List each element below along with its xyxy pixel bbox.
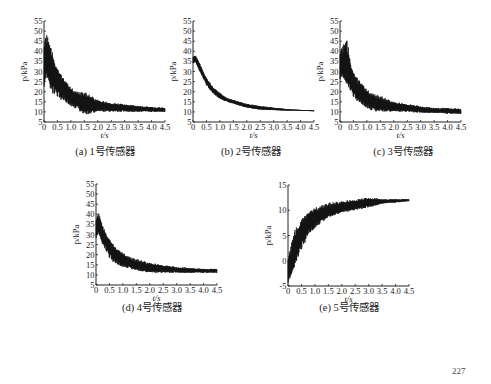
y-tick-label: 45 <box>183 36 192 46</box>
chart-panel-c: 51015202530354045505500.51.01.52.02.53.0… <box>296 0 466 160</box>
y-tick-label: 50 <box>34 26 43 36</box>
x-tick-label: 4.0 <box>198 285 209 295</box>
x-axis-label: t/s <box>396 130 405 140</box>
x-tick-label: 0 <box>191 122 195 132</box>
x-tick-label: 0.5 <box>201 122 212 132</box>
x-axis-label: t/s <box>249 130 258 140</box>
chart-panel-a: 51015202530354045505500.51.01.52.02.53.0… <box>0 0 170 160</box>
chart-a: 51015202530354045505500.51.01.52.02.53.0… <box>0 0 170 160</box>
x-tick-label: 0.5 <box>104 285 115 295</box>
y-tick-label: 15 <box>183 97 192 107</box>
x-tick-label: 4.5 <box>404 286 415 296</box>
x-tick-label: 1.0 <box>310 286 321 296</box>
x-tick-label: 3.0 <box>171 285 182 295</box>
y-tick-label: 40 <box>34 46 43 56</box>
x-tick-label: 1.0 <box>362 122 373 132</box>
x-tick-label: 4.0 <box>442 122 453 132</box>
y-tick-label: 25 <box>330 77 339 87</box>
y-tick-label: 45 <box>34 36 43 46</box>
x-tick-label: 3.5 <box>429 122 440 132</box>
y-tick-label: 55 <box>34 16 43 26</box>
y-tick-label: 0 <box>282 256 286 266</box>
y-tick-label: 10 <box>86 270 95 280</box>
x-tick-label: 1.0 <box>66 122 77 132</box>
y-tick-label: 15 <box>278 180 287 190</box>
x-tick-label: 0 <box>286 286 290 296</box>
y-tick-label: 25 <box>86 240 95 250</box>
y-tick-label: 20 <box>330 87 339 97</box>
y-axis-label: p/kPa <box>71 225 81 245</box>
y-tick-label: 50 <box>183 26 192 36</box>
y-tick-label: 45 <box>86 199 95 209</box>
x-tick-label: 3.5 <box>133 122 144 132</box>
y-tick-label: 35 <box>34 56 43 66</box>
y-tick-label: 45 <box>330 36 339 46</box>
x-tick-label: 1.5 <box>131 285 142 295</box>
x-tick-label: 4.5 <box>456 122 467 132</box>
y-tick-label: 30 <box>34 67 43 77</box>
y-tick-label: 40 <box>86 209 95 219</box>
y-axis-label: p/kPa <box>263 226 273 246</box>
chart-panel-d: 51015202530354045505500.51.01.52.02.53.0… <box>52 163 222 323</box>
x-tick-label: 3.0 <box>119 122 130 132</box>
x-tick-label: 0 <box>338 122 342 132</box>
x-tick-label: 3.0 <box>363 286 374 296</box>
caption-b: (b) 2号传感器 <box>196 143 306 158</box>
chart-panel-b: 51015202530354045505500.51.01.52.02.53.0… <box>149 0 319 160</box>
y-tick-label: 50 <box>330 26 339 36</box>
x-tick-label: 1.0 <box>118 285 129 295</box>
y-tick-label: 30 <box>330 67 339 77</box>
x-tick-label: 3.5 <box>282 122 293 132</box>
y-tick-label: 30 <box>183 67 192 77</box>
data-series-line <box>288 198 409 283</box>
y-axis-label: p/kPa <box>168 62 178 82</box>
y-tick-label: 10 <box>330 107 339 117</box>
y-tick-label: 55 <box>86 179 95 189</box>
chart-b: 51015202530354045505500.51.01.52.02.53.0… <box>149 0 319 160</box>
x-tick-label: 4.5 <box>212 285 223 295</box>
x-tick-label: 0.5 <box>296 286 307 296</box>
y-tick-label: 15 <box>34 97 43 107</box>
y-tick-label: 35 <box>330 56 339 66</box>
y-tick-label: 40 <box>330 46 339 56</box>
x-tick-label: 0.5 <box>348 122 359 132</box>
caption-a: (a) 1号传感器 <box>50 143 160 158</box>
x-tick-label: 4.0 <box>390 286 401 296</box>
caption-e: (e) 5号传感器 <box>294 299 404 314</box>
x-tick-label: 1.0 <box>215 122 226 132</box>
y-tick-label: 30 <box>86 230 95 240</box>
y-tick-label: 10 <box>183 107 192 117</box>
x-tick-label: 3.0 <box>415 122 426 132</box>
y-axis-label: p/kPa <box>19 62 29 82</box>
y-tick-label: 20 <box>34 87 43 97</box>
chart-c: 51015202530354045505500.51.01.52.02.53.0… <box>296 0 466 160</box>
y-tick-label: 15 <box>330 97 339 107</box>
y-tick-label: 25 <box>34 77 43 87</box>
y-tick-label: 20 <box>86 250 95 260</box>
y-axis-label: p/kPa <box>315 62 325 82</box>
y-tick-label: 55 <box>330 16 339 26</box>
x-tick-label: 3.5 <box>377 286 388 296</box>
x-tick-label: 0 <box>42 122 46 132</box>
y-tick-label: 20 <box>183 87 192 97</box>
x-axis-label: t/s <box>100 130 109 140</box>
caption-c: (c) 3号传感器 <box>348 143 458 158</box>
x-tick-label: 3.0 <box>268 122 279 132</box>
caption-d: (d) 4号传感器 <box>97 299 207 314</box>
x-tick-label: 3.5 <box>185 285 196 295</box>
y-tick-label: 15 <box>86 260 95 270</box>
y-tick-label: 40 <box>183 46 192 56</box>
data-series-line <box>96 214 217 273</box>
data-series-line <box>340 41 461 114</box>
chart-panel-e: -505101500.51.01.52.02.53.03.54.04.5t/sp… <box>244 164 414 324</box>
page-number: 227 <box>452 366 466 376</box>
data-series-line <box>44 35 165 114</box>
x-tick-label: 1.5 <box>375 122 386 132</box>
x-tick-label: 1.5 <box>79 122 90 132</box>
y-tick-label: 35 <box>86 219 95 229</box>
x-tick-label: 0 <box>94 285 98 295</box>
y-tick-label: 35 <box>183 56 192 66</box>
y-tick-label: 25 <box>183 77 192 87</box>
y-tick-label: 10 <box>34 107 43 117</box>
y-tick-label: 10 <box>278 205 287 215</box>
